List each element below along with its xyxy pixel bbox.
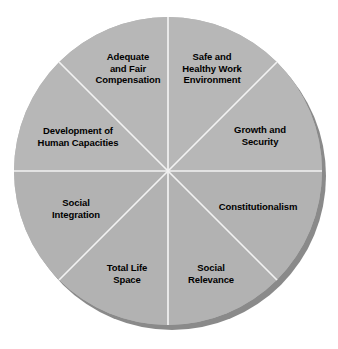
wheel-dividers [14,17,322,325]
wheel-graphic [0,0,338,349]
quality-of-work-life-wheel: Adequate and Fair Compensation Safe and … [0,0,338,349]
